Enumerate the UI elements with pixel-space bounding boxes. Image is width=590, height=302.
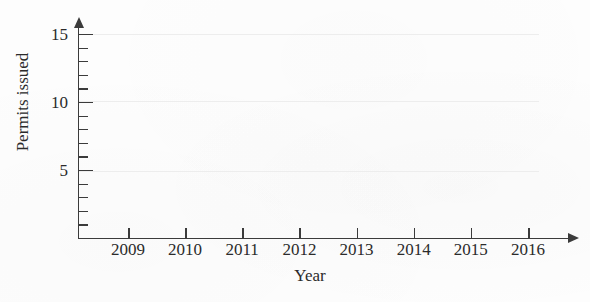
y-axis-title: Permits issued [13,17,33,187]
y-tick-minor-11 [79,88,88,89]
y-tick-minor-13 [79,61,88,62]
plot-area [78,31,548,238]
y-axis-arrow-icon [74,17,84,28]
y-tick-major-5 [79,170,93,172]
y-tick-major-15 [79,34,93,36]
y-tick-minor-8 [79,129,88,130]
gridline-15 [78,34,539,35]
y-tick-label-10: 10 [28,94,68,111]
x-tick-label-2013: 2013 [327,241,387,258]
y-tick-major-10 [79,102,93,104]
x-tick-2014 [414,228,416,238]
y-tick-minor-6 [79,156,88,157]
x-tick-label-2014: 2014 [384,241,444,258]
y-tick-minor-7 [79,143,88,144]
y-axis-line [78,26,79,239]
y-tick-minor-2 [79,211,88,212]
chart-figure: 15 10 5 2009 2010 2011 2012 2013 2014 20… [0,0,590,302]
x-tick-2015 [471,228,473,238]
x-tick-label-2009: 2009 [98,241,158,258]
x-tick-label-2012: 2012 [269,241,329,258]
y-tick-label-15: 15 [28,26,68,43]
y-tick-minor-1 [79,224,88,225]
y-tick-minor-12 [79,75,88,76]
x-axis-arrow-icon [568,233,579,243]
x-tick-label-2011: 2011 [212,241,272,258]
x-tick-2011 [242,228,244,238]
y-tick-minor-4 [79,184,88,185]
y-tick-label-5: 5 [28,162,68,179]
x-axis-title: Year [0,266,590,286]
x-tick-2009 [128,228,130,238]
x-tick-2013 [357,228,359,238]
gridline-10 [78,101,539,102]
x-tick-2012 [299,228,301,238]
x-tick-2016 [528,228,530,238]
y-tick-minor-3 [79,197,88,198]
x-tick-label-2010: 2010 [155,241,215,258]
y-tick-minor-14 [79,48,88,49]
x-tick-2010 [185,228,187,238]
chart-title [0,0,590,2]
x-tick-label-2015: 2015 [441,241,501,258]
x-tick-label-2016: 2016 [498,241,558,258]
y-tick-minor-9 [79,116,88,117]
x-axis-line [78,238,570,239]
gridline-5 [78,171,539,172]
